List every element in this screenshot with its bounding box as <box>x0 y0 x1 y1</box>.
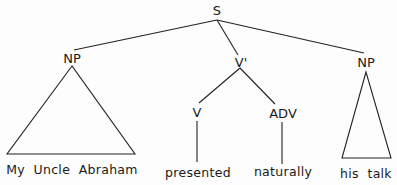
tree-edges <box>0 0 397 185</box>
syntax-tree-diagram: S NP V' NP V ADV My Uncle Abraham presen… <box>0 0 397 185</box>
edge-s-np-object <box>217 20 364 53</box>
node-vbar: V' <box>235 56 247 69</box>
triangle-object <box>342 72 391 158</box>
edge-vbar-adv <box>240 68 275 104</box>
node-v: V <box>193 106 202 119</box>
edge-s-vbar <box>217 20 238 55</box>
edge-vbar-v <box>199 68 240 103</box>
node-np-object: NP <box>357 56 375 69</box>
node-adv: ADV <box>269 107 297 120</box>
leaf-naturally: naturally <box>254 166 312 179</box>
node-np-subject: NP <box>63 52 81 65</box>
triangle-subject <box>7 66 135 154</box>
leaf-object: his talk <box>340 168 392 181</box>
node-s: S <box>213 4 221 17</box>
leaf-subject: My Uncle Abraham <box>6 164 138 177</box>
leaf-presented: presented <box>165 167 231 180</box>
edge-s-np-subject <box>74 20 217 50</box>
